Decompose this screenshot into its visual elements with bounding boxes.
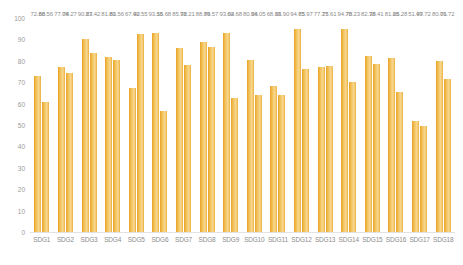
bar-column[interactable]: 75.97	[302, 18, 309, 232]
bar[interactable]: 51.97	[412, 121, 419, 232]
x-axis-tick-sdg5: SDG5	[124, 236, 148, 243]
bar-column[interactable]: 49.72	[420, 18, 427, 232]
bar-value-label: 62.68	[227, 11, 242, 17]
bar[interactable]: 49.72	[420, 126, 427, 232]
x-axis-tick-sdg3: SDG3	[77, 236, 101, 243]
bar-column[interactable]: 80.06	[436, 18, 443, 232]
bar-column[interactable]: 94.78	[341, 18, 348, 232]
bar[interactable]: 56.68	[160, 111, 167, 232]
x-axis-tick-sdg8: SDG8	[195, 236, 219, 243]
bar[interactable]: 78.21	[184, 65, 191, 232]
y-axis-tick: 100	[14, 15, 25, 22]
bar-column[interactable]: 88.79	[200, 18, 207, 232]
bar-value-label: 83.42	[86, 11, 101, 17]
bar[interactable]: 82.38	[365, 56, 372, 232]
y-axis-tick: 20	[18, 186, 25, 193]
y-axis-tick: 0	[21, 229, 25, 236]
bar[interactable]: 80.36	[247, 60, 254, 232]
bar[interactable]: 80.56	[113, 60, 120, 232]
bar[interactable]: 77.25	[318, 67, 325, 232]
bar-group: 72.8860.56	[30, 18, 54, 232]
bar[interactable]: 88.79	[200, 42, 207, 232]
x-axis-tick-sdg13: SDG13	[313, 236, 337, 243]
bar-column[interactable]: 70.23	[349, 18, 356, 232]
bar-column[interactable]: 78.41	[373, 18, 380, 232]
bar[interactable]: 68.36	[270, 86, 277, 232]
x-axis-line	[30, 232, 455, 233]
x-axis-tick-sdg15: SDG15	[361, 236, 385, 243]
bar-column[interactable]: 62.68	[231, 18, 238, 232]
x-axis-tick-sdg7: SDG7	[172, 236, 196, 243]
bar[interactable]: 75.97	[302, 69, 309, 232]
bar-value-label: 86.57	[204, 11, 219, 17]
bar-column[interactable]: 71.72	[444, 18, 451, 232]
bar-column[interactable]: 51.97	[412, 18, 419, 232]
bar-column[interactable]: 94.65	[294, 18, 301, 232]
bar[interactable]: 80.06	[436, 61, 443, 232]
bar-column[interactable]: 81.26	[388, 18, 395, 232]
bar-column[interactable]: 65.28	[396, 18, 403, 232]
bar[interactable]: 62.68	[231, 98, 238, 232]
bar-column[interactable]: 60.56	[42, 18, 49, 232]
bar-column[interactable]: 90.27	[82, 18, 89, 232]
bar-column[interactable]: 77.61	[326, 18, 333, 232]
bar[interactable]: 90.27	[82, 39, 89, 232]
bar-column[interactable]: 67.40	[129, 18, 136, 232]
bar-group: 88.7986.57	[195, 18, 219, 232]
bar-value-label: 80.56	[109, 11, 124, 17]
bar-column[interactable]: 74.27	[66, 18, 73, 232]
bar-group: 82.3878.41	[361, 18, 385, 232]
bar[interactable]: 81.26	[388, 58, 395, 232]
bar-value-label: 75.97	[298, 11, 313, 17]
bar[interactable]: 60.56	[42, 102, 49, 232]
bar-column[interactable]: 92.55	[137, 18, 144, 232]
bar-value-label: 63.90	[275, 11, 290, 17]
bar[interactable]: 70.23	[349, 82, 356, 232]
bar-column[interactable]: 63.90	[278, 18, 285, 232]
bar-column[interactable]: 93.04	[223, 18, 230, 232]
bar-column[interactable]: 80.56	[113, 18, 120, 232]
x-axis-tick-sdg6: SDG6	[148, 236, 172, 243]
bar-group: 77.2577.61	[313, 18, 337, 232]
bar-value-label: 77.61	[322, 11, 337, 17]
bar-group: 80.0671.72	[431, 18, 455, 232]
bar[interactable]: 78.41	[373, 64, 380, 232]
bar[interactable]: 86.57	[208, 47, 215, 232]
bar-value-label: 49.72	[416, 11, 431, 17]
bar-column[interactable]: 81.81	[105, 18, 112, 232]
bar-column[interactable]: 72.88	[34, 18, 41, 232]
bar-column[interactable]: 64.05	[255, 18, 262, 232]
bar[interactable]: 93.15	[152, 33, 159, 232]
bar-column[interactable]: 56.68	[160, 18, 167, 232]
bar[interactable]: 63.90	[278, 95, 285, 232]
bar-column[interactable]: 82.38	[365, 18, 372, 232]
bar[interactable]: 71.72	[444, 79, 451, 232]
bar[interactable]: 72.88	[34, 76, 41, 232]
bar-value-label: 56.68	[157, 11, 172, 17]
y-axis-tick: 80	[18, 57, 25, 64]
bar[interactable]: 94.78	[341, 29, 348, 232]
bar-column[interactable]: 68.36	[270, 18, 277, 232]
bar-column[interactable]: 85.92	[176, 18, 183, 232]
bar[interactable]: 93.04	[223, 33, 230, 232]
bar[interactable]: 81.81	[105, 57, 112, 232]
bar[interactable]: 85.92	[176, 48, 183, 232]
bar-column[interactable]: 77.25	[318, 18, 325, 232]
bar-column[interactable]: 78.21	[184, 18, 191, 232]
bar[interactable]: 83.42	[90, 53, 97, 232]
bar[interactable]: 74.27	[66, 73, 73, 232]
bar[interactable]: 64.05	[255, 95, 262, 232]
bar-group: 90.2783.42	[77, 18, 101, 232]
bar-column[interactable]: 80.36	[247, 18, 254, 232]
bar[interactable]: 77.61	[326, 66, 333, 232]
x-axis-tick-sdg18: SDG18	[431, 236, 455, 243]
bar-column[interactable]: 83.42	[90, 18, 97, 232]
bar[interactable]: 77.08	[58, 67, 65, 232]
bar[interactable]: 65.28	[396, 92, 403, 232]
bar[interactable]: 67.40	[129, 88, 136, 232]
bar[interactable]: 94.65	[294, 29, 301, 232]
bar[interactable]: 92.55	[137, 34, 144, 232]
bar-column[interactable]: 77.08	[58, 18, 65, 232]
bar-column[interactable]: 86.57	[208, 18, 215, 232]
bar-column[interactable]: 93.15	[152, 18, 159, 232]
